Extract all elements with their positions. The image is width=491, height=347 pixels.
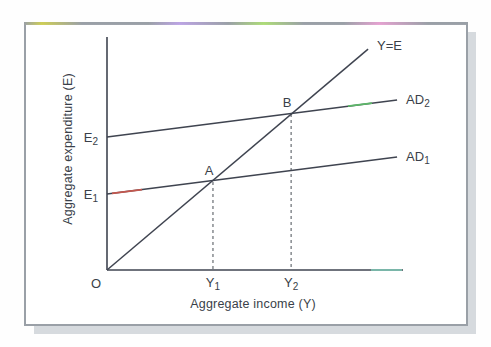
x-tick-Y2: Y2	[284, 275, 299, 292]
scan-tint-AD2	[348, 103, 372, 106]
series-line-AD1	[107, 157, 397, 194]
y-tick-E1: E1	[84, 187, 99, 204]
y-axis-title: Aggregate expenditure (E)	[61, 73, 75, 225]
y-tick-E2: E2	[84, 130, 99, 147]
scanned-figure-page: Y=EAD2AD1ABY1Y2E1E2O Aggregate income (Y…	[0, 0, 491, 347]
point-label-A: A	[205, 163, 214, 178]
origin-label: O	[91, 276, 101, 291]
x-axis-title: Aggregate income (Y)	[190, 297, 316, 311]
scan-tint-AD1	[112, 190, 142, 194]
point-label-B: B	[283, 95, 292, 110]
series-line-Y=E	[107, 49, 368, 270]
keynesian-cross-plot: Y=EAD2AD1ABY1Y2E1E2O Aggregate income (Y…	[0, 0, 491, 347]
series-label-AD2: AD2	[406, 92, 430, 109]
plot-labels: Y=EAD2AD1ABY1Y2E1E2O	[84, 38, 430, 292]
plot-lines	[107, 37, 403, 270]
series-label-AD1: AD1	[406, 149, 430, 166]
x-tick-Y1: Y1	[206, 275, 221, 292]
series-label-Y=E: Y=E	[377, 38, 402, 53]
